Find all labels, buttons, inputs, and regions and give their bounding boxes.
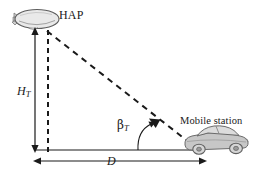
mobile-station-car-icon xyxy=(185,126,248,154)
hap-label: HAP xyxy=(59,9,84,21)
hap-airship-icon xyxy=(12,10,59,30)
distance-symbol: D xyxy=(107,154,116,168)
height-label: HT xyxy=(17,85,30,99)
distance-axis xyxy=(33,157,207,164)
elevation-angle-label: βT xyxy=(117,119,129,133)
diagram-canvas xyxy=(0,0,257,177)
figure-container: HAP Mobile station HT D βT xyxy=(0,0,257,177)
elevation-angle-arc xyxy=(138,121,156,150)
beta-subscript: T xyxy=(124,123,129,133)
distance-label: D xyxy=(107,155,116,167)
height-axis xyxy=(31,27,38,153)
mobile-station-label: Mobile station xyxy=(180,116,242,127)
height-subscript: T xyxy=(26,89,31,99)
height-symbol: H xyxy=(17,84,26,98)
beta-symbol: β xyxy=(117,118,124,132)
